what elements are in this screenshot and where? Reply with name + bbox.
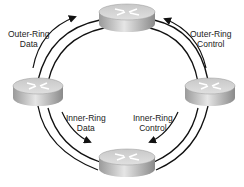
label-line: Control xyxy=(133,123,173,133)
outer-ring-control-label: Outer-Ring Control xyxy=(190,29,232,49)
ring-diagram: Outer-Ring Data Outer-Ring Control Inner… xyxy=(0,0,244,187)
label-line: Inner-Ring xyxy=(133,113,173,123)
label-line: Outer-Ring xyxy=(8,29,50,39)
label-line: Data xyxy=(8,39,50,49)
label-line: Data xyxy=(66,123,106,133)
router-icon xyxy=(99,4,155,32)
label-line: Control xyxy=(190,39,232,49)
label-line: Outer-Ring xyxy=(190,29,232,39)
router-icon xyxy=(13,78,63,106)
inner-ring-data-label: Inner-Ring Data xyxy=(66,113,106,133)
label-line: Inner-Ring xyxy=(66,113,106,123)
outer-ring-data-label: Outer-Ring Data xyxy=(8,29,50,49)
router-icon xyxy=(99,149,155,177)
router-icon xyxy=(185,78,235,106)
inner-ring-control-label: Inner-Ring Control xyxy=(133,113,173,133)
